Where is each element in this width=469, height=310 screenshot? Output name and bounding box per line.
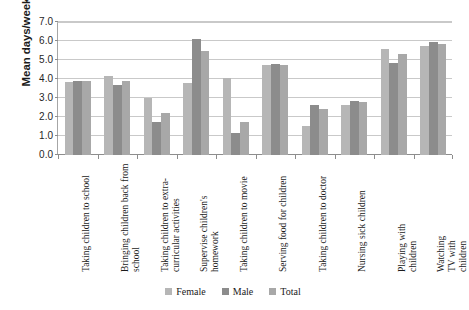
bar — [183, 83, 192, 155]
y-tick-label: 7.0 — [39, 16, 53, 27]
x-axis-label: Nursing sick children — [357, 190, 368, 272]
bar — [389, 63, 398, 155]
bar — [420, 46, 429, 155]
bars-layer — [58, 23, 452, 155]
bar-group — [256, 23, 296, 155]
bar — [144, 98, 153, 155]
bar — [231, 133, 240, 155]
bar — [438, 44, 447, 155]
plot-area: 0.01.02.03.04.05.06.07.0 — [57, 22, 452, 155]
bar — [310, 105, 319, 155]
bar — [104, 76, 113, 155]
chart-legend: FemaleMaleTotal — [0, 286, 466, 297]
bar — [319, 109, 328, 155]
bar — [82, 81, 91, 155]
legend-swatch-icon — [165, 288, 172, 295]
x-axis-label: Taking children to movie — [239, 176, 250, 272]
x-axis-label: Taking children to extra- curricular act… — [160, 178, 182, 272]
legend-label: Total — [280, 286, 300, 297]
bar — [381, 49, 390, 155]
bar-group — [216, 23, 256, 155]
y-tick-label: 5.0 — [39, 54, 53, 65]
x-axis-label: Serving food for children — [278, 176, 289, 272]
legend-swatch-icon — [269, 288, 276, 295]
bar — [262, 65, 271, 155]
bar — [113, 85, 122, 155]
y-tick-label: 1.0 — [39, 130, 53, 141]
bar-group — [58, 23, 98, 155]
legend-label: Female — [176, 286, 205, 297]
x-axis-label: Bringing children back from school — [120, 164, 142, 272]
y-tick-label: 6.0 — [39, 35, 53, 46]
legend-item: Total — [269, 286, 300, 297]
bar — [73, 81, 82, 155]
x-axis-label: Taking children to doctor — [318, 176, 329, 272]
x-axis-label: Watching TV with children — [436, 236, 469, 272]
x-axis-label: Supervise children's homework — [199, 196, 221, 272]
y-tick-label: 3.0 — [39, 92, 53, 103]
bar — [240, 122, 249, 155]
bar — [341, 105, 350, 155]
x-tick-mark — [452, 155, 453, 159]
bar — [201, 51, 210, 156]
y-axis-title: Mean days/week — [20, 0, 32, 112]
x-axis-labels: Taking children to schoolBringing childr… — [57, 158, 452, 276]
bar — [280, 65, 289, 155]
bar-group — [137, 23, 177, 155]
bar — [359, 102, 368, 155]
legend-label: Male — [233, 286, 254, 297]
gridline: 7.0 — [58, 21, 452, 22]
bar — [271, 64, 280, 155]
bar — [122, 81, 131, 155]
bar — [65, 82, 74, 155]
legend-item: Male — [222, 286, 254, 297]
y-tick-label: 0.0 — [39, 149, 53, 160]
y-tick-label: 4.0 — [39, 73, 53, 84]
bar-group — [414, 23, 454, 155]
bar — [429, 42, 438, 155]
bar — [223, 78, 232, 155]
legend-item: Female — [165, 286, 205, 297]
x-axis-label: Playing with children — [397, 217, 419, 272]
x-axis-label: Taking children to school — [81, 175, 92, 272]
bar — [302, 126, 311, 155]
bar — [350, 101, 359, 155]
bar-group — [177, 23, 217, 155]
bar — [152, 122, 161, 155]
legend-swatch-icon — [222, 288, 229, 295]
bar — [161, 113, 170, 155]
bar-group — [295, 23, 335, 155]
y-tick-mark — [55, 21, 58, 22]
bar-group — [98, 23, 138, 155]
y-tick-label: 2.0 — [39, 111, 53, 122]
bar — [192, 39, 201, 155]
bar — [398, 54, 407, 155]
bar-group — [374, 23, 414, 155]
bar-group — [335, 23, 375, 155]
